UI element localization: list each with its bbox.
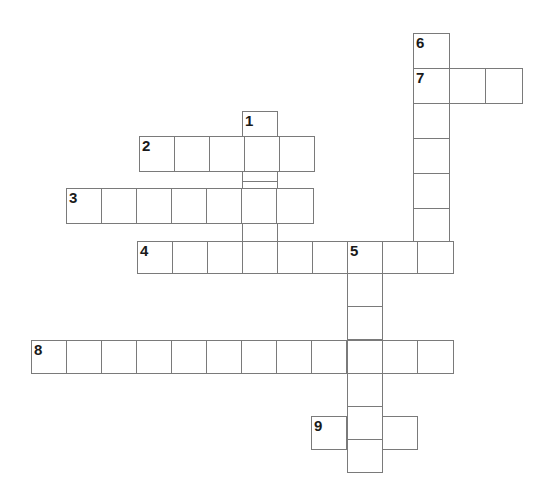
crossword-cell[interactable] [413,208,450,242]
cell-number-4: 4 [140,242,148,259]
crossword-cell-numbered[interactable]: 5 [347,241,383,274]
crossword-puzzle: 671234589 [0,0,558,500]
crossword-cell[interactable] [207,241,243,274]
crossword-cell-numbered[interactable]: 6 [413,33,450,69]
crossword-cell[interactable] [413,103,450,139]
crossword-cell-numbered[interactable]: 3 [66,188,102,224]
crossword-cell[interactable] [382,340,418,374]
crossword-grid[interactable]: 671234589 [0,0,558,500]
crossword-cell[interactable] [347,273,383,307]
crossword-cell[interactable] [417,340,454,374]
crossword-cell[interactable] [347,373,383,407]
crossword-cell[interactable] [347,340,383,374]
cell-number-9: 9 [314,417,322,434]
crossword-cell-numbered[interactable]: 7 [413,68,450,104]
crossword-cell[interactable] [171,340,207,374]
crossword-cell[interactable] [241,188,277,224]
crossword-cell[interactable] [449,68,486,104]
crossword-cell[interactable] [136,340,172,374]
crossword-cell[interactable] [413,173,450,209]
cell-number-2: 2 [142,137,150,154]
crossword-cell-numbered[interactable]: 2 [139,136,175,172]
crossword-cell[interactable] [413,138,450,174]
cell-number-5: 5 [350,242,358,259]
crossword-cell[interactable] [347,439,383,473]
crossword-cell[interactable] [241,340,277,374]
crossword-cell[interactable] [244,136,280,172]
cell-number-7: 7 [416,69,424,86]
crossword-cell[interactable] [347,406,383,440]
cell-number-6: 6 [416,34,424,51]
crossword-cell[interactable] [101,340,137,374]
crossword-cell-numbered[interactable]: 9 [311,416,347,450]
crossword-cell[interactable] [136,188,172,224]
crossword-cell-numbered[interactable]: 4 [137,241,173,274]
crossword-cell[interactable] [242,241,278,274]
cell-number-1: 1 [245,112,253,129]
crossword-cell[interactable] [206,188,242,224]
crossword-cell[interactable] [171,188,207,224]
crossword-cell[interactable] [382,416,418,450]
crossword-cell[interactable] [279,136,315,172]
crossword-cell[interactable] [206,340,242,374]
crossword-cell[interactable] [101,188,137,224]
crossword-cell[interactable] [347,306,383,340]
crossword-cell[interactable] [174,136,210,172]
crossword-cell[interactable] [172,241,208,274]
crossword-cell[interactable] [209,136,245,172]
crossword-cell[interactable] [311,340,347,374]
crossword-cell[interactable] [66,340,102,374]
crossword-cell[interactable] [417,241,454,274]
crossword-cell[interactable] [485,68,523,104]
cell-number-8: 8 [34,341,42,358]
crossword-cell[interactable] [312,241,348,274]
crossword-cell[interactable] [276,188,314,224]
crossword-cell[interactable] [276,340,312,374]
crossword-cell[interactable] [277,241,313,274]
crossword-cell-numbered[interactable]: 8 [31,340,67,374]
cell-number-3: 3 [69,189,77,206]
crossword-cell[interactable] [382,241,418,274]
